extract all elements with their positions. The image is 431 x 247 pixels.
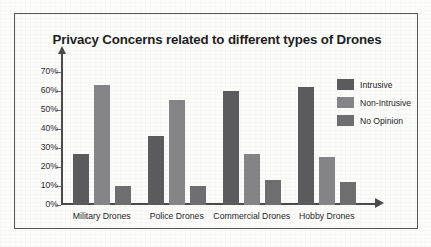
bar <box>73 154 89 205</box>
bar <box>319 157 335 205</box>
y-axis-tick-label: 60% <box>41 85 58 95</box>
legend-swatch-icon <box>337 115 354 126</box>
bar <box>169 100 185 205</box>
legend-item: Non-Intrusive <box>337 94 431 111</box>
bar <box>190 186 206 205</box>
bar <box>94 85 110 205</box>
bar <box>298 87 314 205</box>
legend-swatch-icon <box>337 79 354 90</box>
chart-title: Privacy Concerns related to different ty… <box>15 32 419 47</box>
y-axis-tick-label: 50% <box>41 104 58 114</box>
chart-legend: IntrusiveNon-IntrusiveNo Opinion <box>337 76 431 130</box>
y-axis-arrow-icon <box>58 46 66 54</box>
legend-swatch-icon <box>337 97 354 108</box>
bar <box>244 154 260 205</box>
y-axis-tick-label: 40% <box>41 123 58 133</box>
legend-item: No Opinion <box>337 112 431 129</box>
x-axis-arrow-icon <box>375 198 384 208</box>
bar <box>340 182 356 205</box>
y-axis-tick-label: 0% <box>46 199 58 209</box>
x-axis-category-label: Commercial Drones <box>213 211 291 221</box>
legend-label: No Opinion <box>360 116 403 126</box>
y-axis-line <box>61 53 63 205</box>
y-axis-tick-label: 10% <box>41 180 58 190</box>
y-axis-tick-label: 20% <box>41 161 58 171</box>
legend-label: Intrusive <box>360 80 392 90</box>
chart-frame: Privacy Concerns related to different ty… <box>14 13 418 229</box>
legend-item: Intrusive <box>337 76 431 93</box>
bar <box>148 136 164 205</box>
x-axis-category-label: Police Drones <box>138 211 216 221</box>
bar <box>223 91 239 205</box>
bar <box>115 186 131 205</box>
x-axis-category-label: Military Drones <box>63 211 141 221</box>
chart-figure: Privacy Concerns related to different ty… <box>0 0 431 247</box>
legend-label: Non-Intrusive <box>360 98 411 108</box>
y-axis-tick-label: 70% <box>41 66 58 76</box>
x-axis-category-label: Hobby Drones <box>288 211 366 221</box>
bar <box>265 180 281 205</box>
y-axis-tick-label: 30% <box>41 142 58 152</box>
